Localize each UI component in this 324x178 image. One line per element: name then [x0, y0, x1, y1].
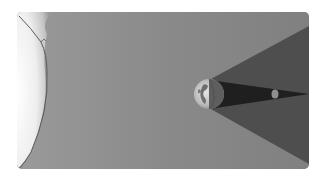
moon	[272, 90, 279, 99]
eclipse-diagram-panel	[17, 12, 309, 169]
eclipse-diagram	[17, 12, 309, 169]
earth	[194, 79, 224, 109]
